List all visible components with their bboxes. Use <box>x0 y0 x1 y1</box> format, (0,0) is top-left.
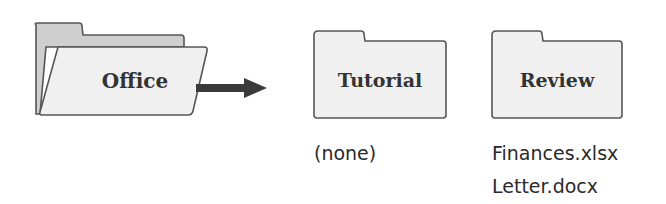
file-entry: Letter.docx <box>492 170 618 203</box>
arrow-right-icon <box>196 78 267 98</box>
folder-label-office: Office <box>75 69 195 93</box>
folder-contents-tutorial: (none) <box>314 137 376 170</box>
folder-label-review: Review <box>492 69 622 91</box>
file-entry: Finances.xlsx <box>492 137 618 170</box>
folder-contents-review: Finances.xlsx Letter.docx <box>492 137 618 203</box>
file-entry: (none) <box>314 137 376 170</box>
folder-label-tutorial: Tutorial <box>314 69 446 91</box>
